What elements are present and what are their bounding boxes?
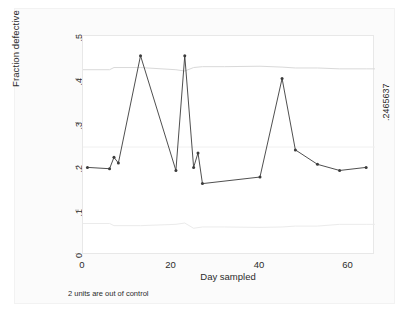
plot-area bbox=[82, 35, 374, 254]
data-point bbox=[183, 54, 186, 57]
data-point bbox=[117, 162, 120, 165]
x-axis-tick-labels: 0204060 bbox=[82, 257, 374, 271]
data-point bbox=[338, 169, 341, 172]
data-point bbox=[108, 167, 111, 170]
limit-line-upper-control-limit bbox=[83, 66, 375, 71]
data-point bbox=[197, 151, 200, 154]
data-point bbox=[281, 77, 284, 80]
x-tick-label: 20 bbox=[165, 259, 176, 270]
data-point bbox=[258, 176, 261, 179]
y-axis-tickmarks bbox=[55, 35, 79, 254]
y-axis-title: Fraction defective bbox=[10, 0, 21, 87]
graph-frame: Fraction defective 0.1.2.3.4.5 0204060 D… bbox=[14, 8, 395, 304]
data-point bbox=[139, 54, 142, 57]
data-series-line bbox=[87, 56, 366, 184]
limit-line-lower-control-limit bbox=[83, 223, 375, 228]
data-point bbox=[86, 166, 89, 169]
data-point bbox=[201, 182, 204, 185]
data-point bbox=[174, 169, 177, 172]
plot-svg bbox=[83, 36, 375, 255]
chart-page: Fraction defective 0.1.2.3.4.5 0204060 D… bbox=[0, 0, 407, 310]
control-limit-lines bbox=[83, 66, 375, 228]
data-point bbox=[294, 148, 297, 151]
x-tick-label: 0 bbox=[79, 259, 84, 270]
data-series-markers bbox=[86, 54, 368, 185]
data-point bbox=[316, 163, 319, 166]
series-path bbox=[87, 56, 366, 184]
out-of-control-note: 2 units are out of control bbox=[68, 289, 148, 298]
x-tick-label: 60 bbox=[342, 259, 353, 270]
y-axis-tick-labels: 0.1.2.3.4.5 bbox=[55, 35, 79, 254]
data-point bbox=[365, 166, 368, 169]
data-point bbox=[192, 166, 195, 169]
x-tick-label: 40 bbox=[254, 259, 265, 270]
x-axis-title: Day sampled bbox=[82, 271, 374, 282]
center-line-value-label: .2465637 bbox=[381, 83, 391, 121]
data-point bbox=[112, 156, 115, 159]
